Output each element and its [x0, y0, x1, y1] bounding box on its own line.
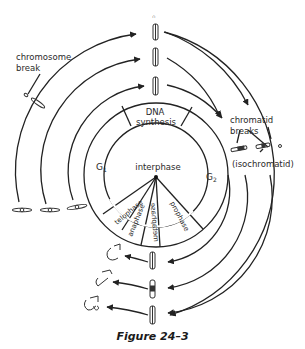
cell-cycle-diagram: ∩ chromosome break DNA synthesis G1 G2 i… — [0, 0, 305, 349]
chromosome-break-label-line2: break — [16, 63, 40, 73]
chromatid-break-glyph — [231, 146, 247, 152]
arrow-bottom-3 — [107, 307, 148, 315]
arrow-bottom-2 — [113, 282, 148, 289]
aberration-2 — [96, 270, 112, 286]
interphase-label: interphase — [135, 162, 180, 172]
arrow-bottom-1 — [125, 256, 148, 262]
chromosome-top-2 — [153, 48, 158, 66]
arc-g2-outer — [164, 32, 274, 315]
dna-label-line1: DNA — [146, 107, 165, 117]
figure-caption: Figure 24–3 — [0, 330, 305, 343]
pointer-chromosome-break — [28, 74, 40, 94]
arc-g1-inner — [68, 86, 144, 200]
chromosome-top-3 — [153, 77, 158, 95]
chromosome-top-1: ∩ — [152, 13, 158, 40]
mitosis-center-point — [154, 175, 158, 179]
chromosome-g1-3 — [67, 203, 87, 210]
chromosome-g1-1 — [12, 208, 32, 212]
chromatid-breaks-label-line2: breaks — [230, 126, 259, 136]
pointer-isochromatid — [260, 149, 263, 152]
chromosome-bottom-3 — [150, 306, 155, 324]
aberration-3 — [84, 296, 98, 310]
svg-text:∩: ∩ — [152, 13, 156, 19]
chromosome-break-label-line1: chromosome — [16, 52, 71, 62]
chromatid-breaks-label-line1: chromatid — [230, 115, 273, 125]
aberration-1 — [107, 244, 120, 260]
g2-label: G2 — [206, 172, 217, 183]
isochromatid-break-glyph — [256, 143, 282, 149]
dna-label-line2: synthesis — [136, 117, 177, 127]
arc-g2-2 — [168, 175, 248, 288]
arc-top-3 — [167, 85, 222, 118]
chromosome-g1-2 — [40, 208, 60, 212]
isochromatid-label: (isochromatid) — [232, 159, 294, 169]
chromosome-bottom-2 — [150, 280, 155, 298]
chromosome-bottom-1 — [150, 252, 155, 269]
arc-g1-middle — [41, 59, 140, 204]
